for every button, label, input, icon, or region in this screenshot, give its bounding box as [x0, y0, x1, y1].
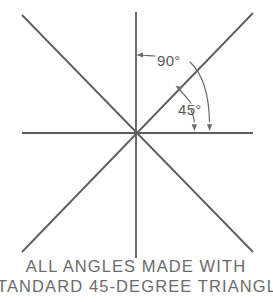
angle-45-label: 45° — [178, 101, 202, 118]
technical-drawing-figure: 90° 45° ALL ANGLES MADE WITH STANDARD 45… — [0, 0, 273, 302]
angle-90-label: 90° — [157, 52, 181, 69]
caption-line-2: STANDARD 45-DEGREE TRIANGLE — [0, 277, 273, 295]
caption-line-1: ALL ANGLES MADE WITH — [26, 257, 246, 275]
angle-diagram-svg: 90° 45° ALL ANGLES MADE WITH STANDARD 45… — [0, 0, 273, 302]
